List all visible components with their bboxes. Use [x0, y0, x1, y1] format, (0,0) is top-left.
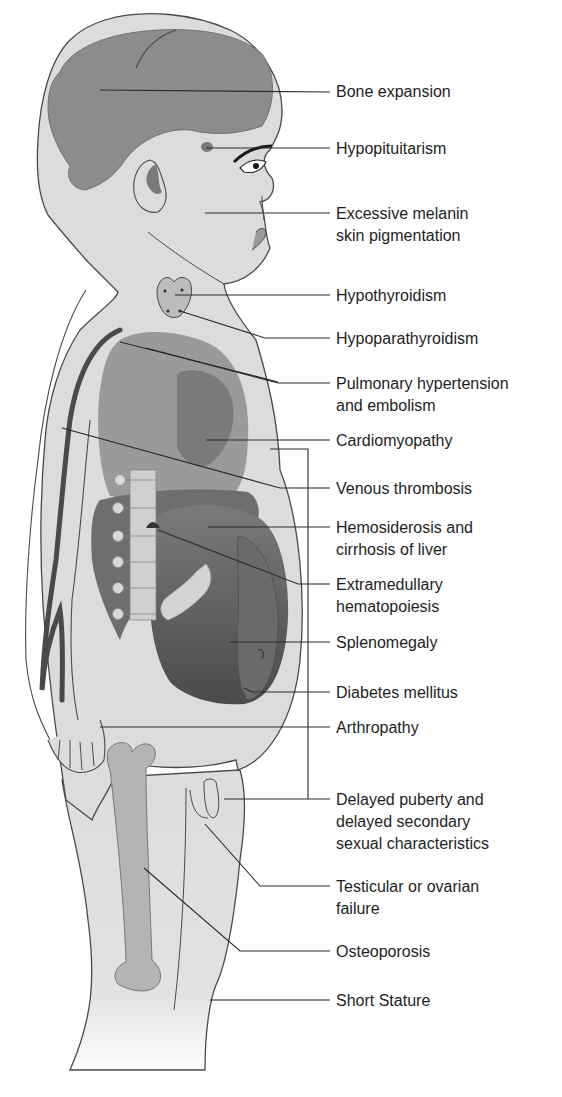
label-hypopituitarism: Hypopituitarism: [336, 138, 446, 160]
label-diabetes-mellitus: Diabetes mellitus: [336, 682, 458, 704]
label-venous-thrombosis: Venous thrombosis: [336, 478, 472, 500]
label-bone-expansion: Bone expansion: [336, 81, 451, 103]
label-pulmonary-hypertension: Pulmonary hypertension and embolism: [336, 373, 509, 417]
label-arthropathy: Arthropathy: [336, 717, 419, 739]
label-testicular-ovarian-failure: Testicular or ovarian failure: [336, 876, 479, 920]
label-hypothyroidism: Hypothyroidism: [336, 285, 446, 307]
label-cardiomyopathy: Cardiomyopathy: [336, 430, 453, 452]
label-splenomegaly: Splenomegaly: [336, 632, 437, 654]
label-osteoporosis: Osteoporosis: [336, 941, 430, 963]
body-diagram: [0, 0, 562, 1097]
label-short-stature: Short Stature: [336, 990, 430, 1012]
label-extramedullary-hematopoiesis: Extramedullary hematopoiesis: [336, 574, 443, 618]
label-hemosiderosis: Hemosiderosis and cirrhosis of liver: [336, 517, 473, 561]
label-delayed-puberty: Delayed puberty and delayed secondary se…: [336, 789, 489, 855]
label-melanin-pigmentation: Excessive melanin skin pigmentation: [336, 203, 469, 247]
label-hypoparathyroidism: Hypoparathyroidism: [336, 328, 478, 350]
